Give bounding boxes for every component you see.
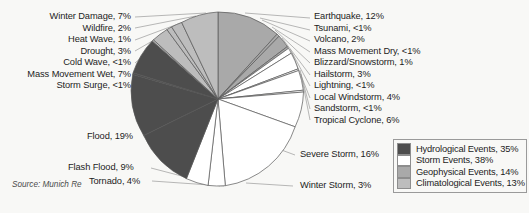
legend-swatch-storm bbox=[397, 155, 411, 167]
slice-label-winter-damage: Winter Damage, 7% bbox=[0, 11, 133, 23]
slice-label-tropical-cyclone: Tropical Cyclone, 6% bbox=[314, 115, 494, 127]
source-note: Source: Munich Re bbox=[12, 180, 82, 189]
legend-item-storm: Storm Events, 38% bbox=[397, 155, 522, 167]
slice-label-heat-wave: Heat Wave, 1% bbox=[0, 34, 133, 46]
slice-label-blizzard-snowstorm: Blizzard/Snowstorm, 1% bbox=[314, 57, 494, 69]
slice-label-tornado: Tornado, 4% bbox=[89, 176, 140, 188]
chart-legend: Hydrological Events, 35% Storm Events, 3… bbox=[393, 139, 527, 193]
slice-label-earthquake: Earthquake, 12% bbox=[314, 11, 494, 23]
slice-label-severe-storm: Severe Storm, 16% bbox=[300, 149, 379, 161]
slice-label-drought: Drought, 3% bbox=[0, 46, 133, 58]
legend-label-storm: Storm Events, 38% bbox=[416, 155, 493, 165]
legend-swatch-hydrological bbox=[397, 143, 411, 155]
slice-label-mass-movement-dry: Mass Movement Dry, <1% bbox=[314, 46, 494, 58]
slice-label-flood: Flood, 19% bbox=[87, 131, 133, 143]
slice-label-storm-surge: Storm Surge, <1% bbox=[0, 80, 133, 92]
slice-label-flash-flood: Flash Flood, 9% bbox=[68, 162, 134, 174]
legend-label-hydrological: Hydrological Events, 35% bbox=[416, 144, 518, 154]
slice-label-wildfire: Wildfire, 2% bbox=[0, 23, 133, 35]
legend-swatch-geophysical bbox=[397, 166, 411, 178]
slice-label-tsunami: Tsunami, <1% bbox=[314, 23, 494, 35]
legend-item-climatological: Climatological Events, 13% bbox=[397, 178, 522, 190]
legend-swatch-climatological bbox=[397, 178, 411, 190]
legend-label-climatological: Climatological Events, 13% bbox=[416, 178, 525, 188]
slice-label-hailstorm: Hailstorm, 3% bbox=[314, 69, 494, 81]
slice-label-mass-movement-wet: Mass Movement Wet, 7% bbox=[0, 69, 133, 81]
slice-label-local-windstorm: Local Windstorm, 4% bbox=[314, 92, 494, 104]
slice-label-winter-storm: Winter Storm, 3% bbox=[300, 180, 371, 192]
right-label-column: Earthquake, 12% Tsunami, <1% Volcano, 2%… bbox=[314, 11, 494, 126]
legend-label-geophysical: Geophysical Events, 14% bbox=[416, 167, 519, 177]
slice-label-lightning: Lightning, <1% bbox=[314, 80, 494, 92]
slice-label-cold-wave: Cold Wave, <1% bbox=[0, 57, 133, 69]
pie-slices bbox=[131, 12, 303, 186]
legend-item-geophysical: Geophysical Events, 14% bbox=[397, 166, 522, 178]
legend-item-hydrological: Hydrological Events, 35% bbox=[397, 143, 522, 155]
slice-label-sandstorm: Sandstorm, <1% bbox=[314, 103, 494, 115]
left-label-column: Winter Damage, 7% Wildfire, 2% Heat Wave… bbox=[0, 11, 133, 92]
slice-label-volcano: Volcano, 2% bbox=[314, 34, 494, 46]
pie-chart-figure: Winter Damage, 7% Wildfire, 2% Heat Wave… bbox=[0, 0, 529, 213]
